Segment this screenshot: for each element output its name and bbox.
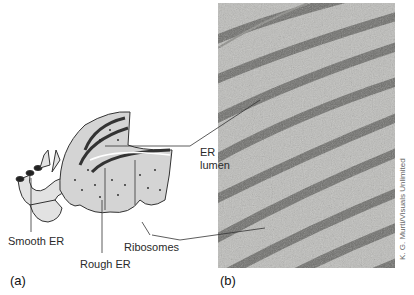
label-rough-er: Rough ER [80, 258, 131, 271]
photo-credit: K. G. Murti/Visuals Unlimited [398, 158, 407, 260]
label-ribosomes: Ribosomes [124, 241, 179, 254]
panel-label-a: (a) [10, 273, 26, 288]
rough-er-sheets [60, 112, 172, 213]
label-smooth-er: Smooth ER [8, 235, 64, 248]
label-er-lumen-2: lumen [200, 159, 230, 172]
label-er-lumen-1: ER [200, 146, 215, 159]
panel-label-b: (b) [220, 273, 236, 288]
